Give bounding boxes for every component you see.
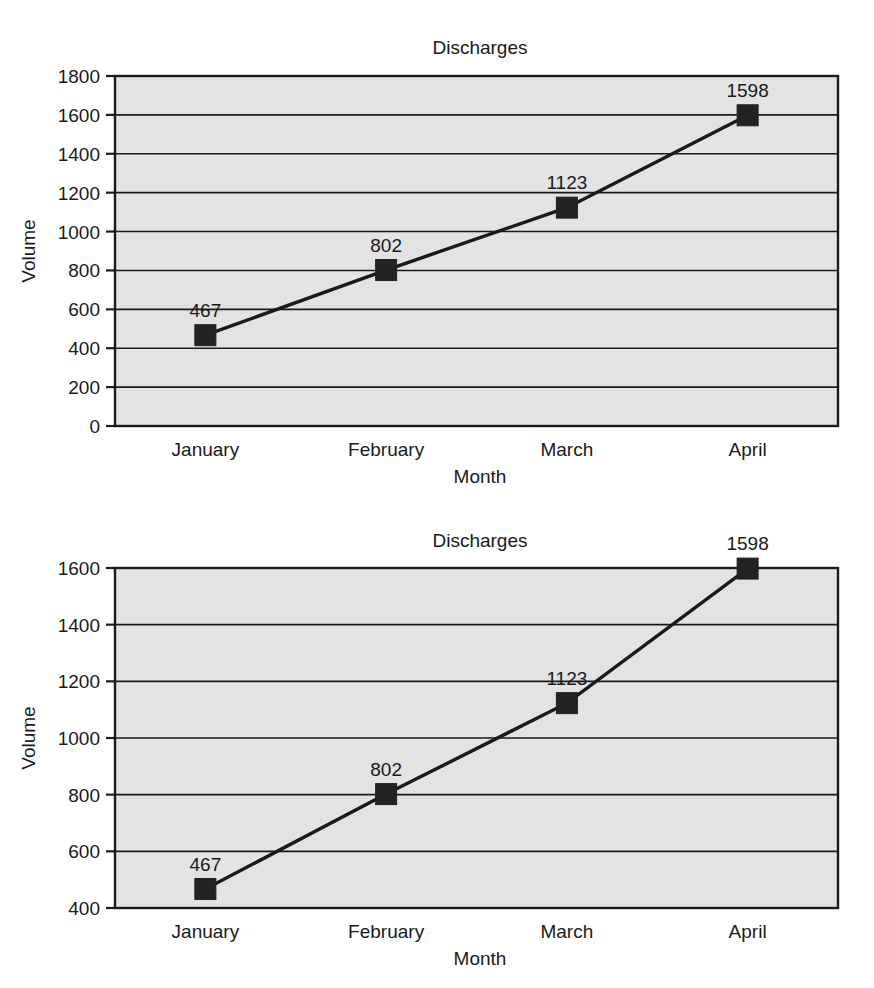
chart-panel-bottom: Discharges 4006008001000120014001600 Vol… xyxy=(0,500,874,988)
y-tick-label: 1600 xyxy=(58,105,100,126)
y-tick-label: 1000 xyxy=(58,222,100,243)
figure-container: Discharges 02004006008001000120014001600… xyxy=(0,0,874,988)
y-axis-title: Volume xyxy=(18,219,39,282)
y-axis-title: Volume xyxy=(18,706,39,769)
y-tick-label: 600 xyxy=(68,841,100,862)
x-tick-label: January xyxy=(172,921,240,942)
tickmarks-group xyxy=(106,568,115,908)
chart-title: Discharges xyxy=(432,530,527,551)
chart-bottom-svg: Discharges 4006008001000120014001600 Vol… xyxy=(0,500,874,988)
data-point-label: 467 xyxy=(190,300,222,321)
data-point-marker xyxy=(737,558,758,579)
y-tick-label: 200 xyxy=(68,377,100,398)
data-point-label: 1598 xyxy=(726,80,768,101)
ytick-labels-group: 4006008001000120014001600 xyxy=(58,558,100,919)
y-tick-label: 1600 xyxy=(58,558,100,579)
x-tick-label: April xyxy=(729,921,767,942)
x-tick-label: April xyxy=(729,439,767,460)
data-point-marker xyxy=(195,325,216,346)
y-tick-label: 1000 xyxy=(58,728,100,749)
y-tick-label: 400 xyxy=(68,338,100,359)
data-point-label: 1598 xyxy=(726,533,768,554)
data-point-marker xyxy=(556,197,577,218)
y-tick-label: 1800 xyxy=(58,66,100,87)
y-tick-label: 1200 xyxy=(58,183,100,204)
tickmarks-group xyxy=(106,76,115,426)
y-tick-label: 0 xyxy=(89,416,100,437)
y-tick-label: 1400 xyxy=(58,615,100,636)
data-point-marker xyxy=(195,879,216,900)
x-tick-label: March xyxy=(540,439,593,460)
y-tick-label: 800 xyxy=(68,785,100,806)
data-point-label: 1123 xyxy=(546,668,587,689)
data-point-label: 802 xyxy=(370,759,402,780)
x-tick-label: March xyxy=(540,921,593,942)
x-tick-label: February xyxy=(348,439,425,460)
x-axis-title: Month xyxy=(454,466,507,487)
data-point-marker xyxy=(737,105,758,126)
plot-background xyxy=(115,76,838,426)
chart-top-svg: Discharges 02004006008001000120014001600… xyxy=(0,0,874,500)
data-point-marker xyxy=(376,784,397,805)
data-point-label: 467 xyxy=(190,854,222,875)
y-tick-label: 600 xyxy=(68,299,100,320)
ytick-labels-group: 020040060080010001200140016001800 xyxy=(58,66,100,437)
x-tick-label: February xyxy=(348,921,425,942)
data-point-marker xyxy=(556,693,577,714)
y-tick-label: 1400 xyxy=(58,144,100,165)
x-tick-label: January xyxy=(172,439,240,460)
x-axis-title: Month xyxy=(454,948,507,969)
y-tick-label: 400 xyxy=(68,898,100,919)
xtick-labels-group: JanuaryFebruaryMarchApril xyxy=(172,921,767,942)
xtick-labels-group: JanuaryFebruaryMarchApril xyxy=(172,439,767,460)
data-point-marker xyxy=(376,260,397,281)
data-point-label: 802 xyxy=(370,235,402,256)
chart-panel-top: Discharges 02004006008001000120014001600… xyxy=(0,0,874,500)
data-point-label: 1123 xyxy=(546,172,587,193)
y-tick-label: 800 xyxy=(68,260,100,281)
chart-title: Discharges xyxy=(432,37,527,58)
y-tick-label: 1200 xyxy=(58,671,100,692)
